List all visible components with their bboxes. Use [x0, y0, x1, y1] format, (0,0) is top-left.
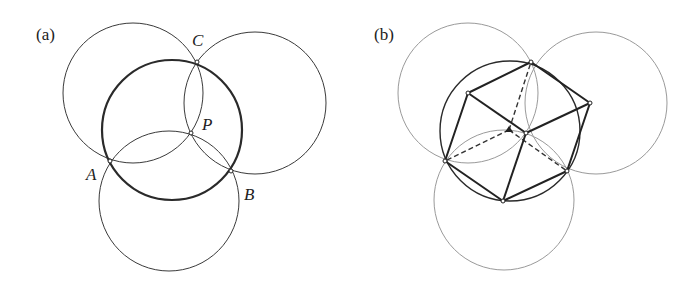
- panel-a-label: (a): [36, 25, 55, 44]
- label-B: B: [244, 185, 255, 204]
- circle-top-right-light: [525, 32, 667, 174]
- label-C: C: [192, 31, 204, 50]
- point-P: [189, 131, 193, 135]
- label-P: P: [201, 115, 212, 134]
- point-A: [108, 159, 112, 163]
- label-A: A: [85, 165, 97, 184]
- circle-top-left: [63, 23, 203, 163]
- circle-top-right: [184, 32, 326, 174]
- point-B: [229, 169, 233, 173]
- panel-b-label: (b): [374, 25, 394, 44]
- panel-b: (b): [374, 23, 667, 270]
- hidden-vertex-marker: [505, 126, 513, 132]
- panel-a: (a) C P A B: [36, 23, 326, 271]
- figure: (a) C P A B: [0, 0, 696, 290]
- point-C: [195, 60, 199, 64]
- circle-circum-bold: [102, 60, 242, 200]
